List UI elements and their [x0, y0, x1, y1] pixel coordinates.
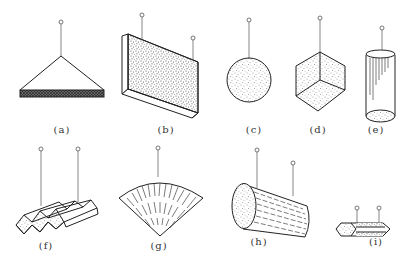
panel-label-a: (a)	[54, 124, 71, 135]
hanger-ring-icon	[377, 206, 381, 210]
panel-a	[20, 20, 104, 97]
panel-f	[16, 147, 98, 234]
hanger-ring-icon	[39, 147, 43, 151]
panel-label-f: (f)	[39, 240, 54, 251]
hanger-ring-icon	[318, 16, 322, 20]
panel-label-c: (c)	[246, 124, 262, 135]
panel-c	[227, 18, 271, 102]
hanger-ring-icon	[355, 206, 359, 210]
hanger-ring-icon	[156, 146, 160, 150]
hanger-ring-icon	[247, 18, 251, 22]
hanger-ring-icon	[191, 36, 195, 40]
hanger-ring-icon	[291, 161, 295, 165]
panel-i	[335, 206, 390, 237]
panel-h	[232, 148, 309, 237]
hanger-ring-icon	[140, 13, 144, 17]
panel-label-h: (h)	[250, 236, 267, 247]
hanger-ring-icon	[59, 20, 63, 24]
panel-label-i: (i)	[369, 236, 383, 247]
hanger-ring-icon	[76, 147, 80, 151]
panel-label-b: (b)	[157, 124, 174, 135]
panel-g	[119, 146, 203, 236]
panel-d	[296, 16, 345, 111]
panel-e	[366, 26, 395, 122]
panel-label-g: (g)	[150, 240, 167, 251]
hanger-ring-icon	[380, 26, 384, 30]
panel-label-e: (e)	[368, 124, 385, 135]
panel-b	[122, 13, 198, 118]
hanger-ring-icon	[255, 148, 259, 152]
panel-label-d: (d)	[309, 124, 326, 135]
